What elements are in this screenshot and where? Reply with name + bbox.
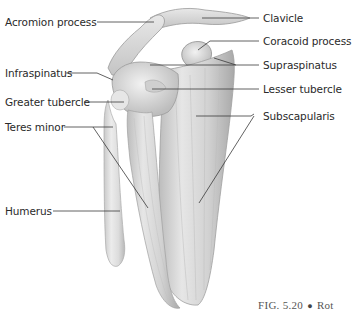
- caption-figure-number: FIG. 5.20: [258, 299, 303, 311]
- bullet-icon: ●: [307, 301, 313, 311]
- label-infraspinatus: Infraspinatus: [5, 67, 72, 79]
- leader-infraspinatus: [66, 73, 113, 80]
- label-greater-tubercle: Greater tubercle: [5, 96, 90, 108]
- anatomy-figure: Acromion process Infraspinatus Greater t…: [0, 0, 352, 317]
- label-subscapularis: Subscapularis: [263, 110, 335, 122]
- label-coracoid-process: Coracoid process: [263, 35, 351, 47]
- label-lesser-tubercle: Lesser tubercle: [263, 83, 342, 95]
- label-supraspinatus: Supraspinatus: [263, 59, 337, 71]
- caption-text: Rot: [317, 299, 334, 311]
- label-humerus: Humerus: [5, 205, 52, 217]
- label-clavicle: Clavicle: [263, 12, 303, 24]
- label-teres-minor: Teres minor: [5, 121, 65, 133]
- shoulder-illustration: [0, 0, 352, 317]
- label-acromion-process: Acromion process: [5, 16, 97, 28]
- figure-caption: FIG. 5.20●Rot: [258, 299, 334, 311]
- humerus-shape: [104, 100, 125, 266]
